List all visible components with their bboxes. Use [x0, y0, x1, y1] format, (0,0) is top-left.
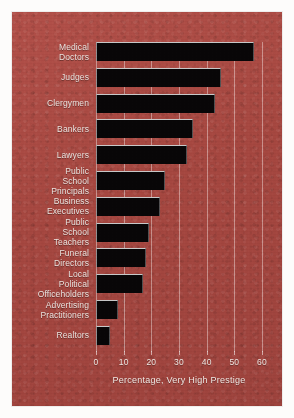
bar-row: Judges — [96, 68, 262, 87]
gridline — [262, 42, 263, 352]
category-label: Advertising Practitioners — [40, 300, 89, 320]
tick-label: 40 — [202, 357, 212, 367]
bar — [96, 119, 193, 138]
bar — [96, 171, 165, 190]
bar-row: Business Executives — [96, 197, 262, 216]
tick-mark — [124, 351, 125, 355]
tick-mark — [207, 351, 208, 355]
bar-row: Local Political Officeholders — [96, 274, 262, 293]
category-label: Business Executives — [47, 196, 89, 216]
category-label: Funeral Directors — [54, 248, 89, 268]
tick-mark — [179, 351, 180, 355]
bar-row: Clergymen — [96, 94, 262, 113]
bar-row: Advertising Practitioners — [96, 300, 262, 319]
bar-row: Public School Teachers — [96, 223, 262, 242]
category-label: Judges — [61, 72, 89, 82]
bar — [96, 223, 149, 242]
tick-mark — [151, 351, 152, 355]
category-label: Bankers — [57, 124, 89, 134]
tick-mark — [96, 351, 97, 355]
category-label: Realtors — [57, 330, 89, 340]
bar-row: Medical Doctors — [96, 42, 262, 61]
bar — [96, 42, 254, 61]
chart-panel: Medical DoctorsJudgesClergymenBankersLaw… — [12, 12, 282, 406]
bar — [96, 145, 187, 164]
bar — [96, 248, 146, 267]
category-label: Lawyers — [57, 150, 89, 160]
category-label: Public School Teachers — [54, 217, 89, 247]
bar — [96, 68, 221, 87]
bar-row: Funeral Directors — [96, 248, 262, 267]
tick-mark — [234, 351, 235, 355]
category-label: Public School Principals — [51, 166, 89, 196]
bar — [96, 94, 215, 113]
tick-label: 30 — [174, 357, 184, 367]
bar — [96, 197, 160, 216]
bar-row: Bankers — [96, 119, 262, 138]
bar-row: Realtors — [96, 326, 262, 345]
bar — [96, 300, 118, 319]
tick-label: 50 — [229, 357, 239, 367]
bar — [96, 326, 110, 345]
tick-label: 0 — [94, 357, 99, 367]
category-label: Local Political Officeholders — [38, 269, 89, 299]
bar-row: Lawyers — [96, 145, 262, 164]
category-label: Clergymen — [47, 98, 89, 108]
plot-area: Medical DoctorsJudgesClergymenBankersLaw… — [96, 42, 262, 352]
x-axis-label: Percentage, Very High Prestige — [96, 375, 262, 385]
tick-label: 60 — [257, 357, 267, 367]
category-label: Medical Doctors — [59, 42, 89, 62]
tick-label: 20 — [146, 357, 156, 367]
bar-row: Public School Principals — [96, 171, 262, 190]
tick-mark — [262, 351, 263, 355]
chart-figure: Medical DoctorsJudgesClergymenBankersLaw… — [0, 0, 294, 418]
bar — [96, 274, 143, 293]
tick-label: 10 — [119, 357, 129, 367]
